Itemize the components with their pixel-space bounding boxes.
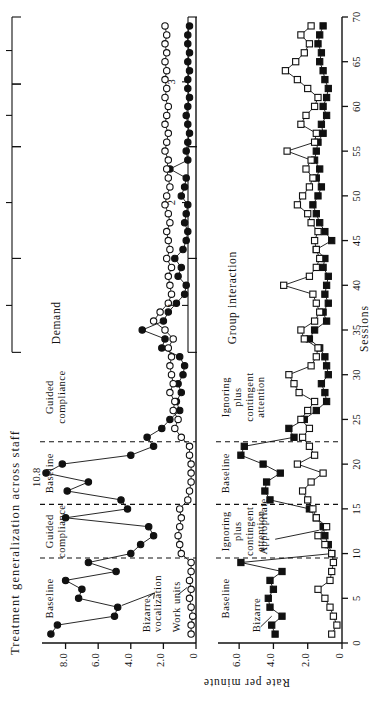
bracket-label: 3: [0, 106, 1, 124]
figure-frame: Treatment generalization across staffRat…: [0, 0, 378, 707]
x-tick-label: 50: [351, 183, 362, 209]
x-tick-label: 45: [351, 228, 362, 254]
x-tick-label: 40: [351, 272, 362, 298]
x-tick-label: 5: [351, 585, 362, 611]
x-tick-label: 60: [351, 93, 362, 119]
y-tick-label: 6.0: [90, 653, 101, 687]
x-tick-label: 65: [351, 49, 362, 75]
x-tick-label: 10: [351, 541, 362, 567]
x-tick-label: 15: [351, 496, 362, 522]
x-tick-label: 0: [351, 630, 362, 656]
figure-stage: Treatment generalization across staffRat…: [0, 0, 378, 707]
y-tick-label: 4.0: [123, 653, 134, 687]
x-tick-label: 70: [351, 4, 362, 30]
y-tick-label: 4.0: [265, 653, 276, 687]
x-tick-label: 30: [351, 362, 362, 388]
panel-top-hit[interactable]: [6, 17, 200, 643]
treatment-generalization-figure: Treatment generalization across staffRat…: [0, 0, 378, 707]
y-tick-label: 8.0: [58, 653, 69, 687]
x-tick-label: 25: [351, 406, 362, 432]
bracket-label: 2: [0, 194, 1, 212]
bracket-label: 1: [0, 296, 1, 314]
y-tick-label: 0: [334, 653, 345, 687]
y-tick-label: 2.0: [155, 653, 166, 687]
y-axis-label: Rate per minute: [203, 677, 290, 689]
x-tick-label: 55: [351, 138, 362, 164]
y-tick-label: 2.0: [300, 653, 311, 687]
y-tick-label: 6.0: [231, 653, 242, 687]
y-tick-label: 0: [188, 653, 199, 687]
panel-bottom-hit[interactable]: [182, 17, 346, 643]
x-tick-label: 20: [351, 451, 362, 477]
bracket-label: 4: [0, 42, 1, 60]
x-tick-label: 35: [351, 317, 362, 343]
